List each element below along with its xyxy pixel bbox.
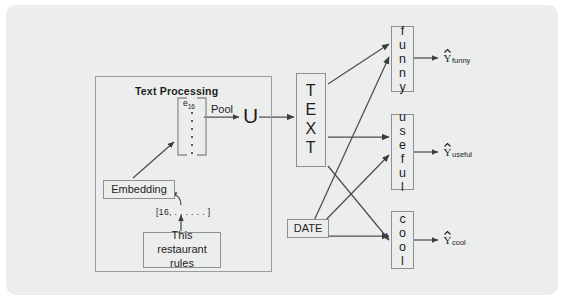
- text-branch-label-l2: E: [305, 101, 316, 120]
- edge-text-to-cool: [328, 166, 389, 240]
- head-cool-l1: c: [399, 212, 405, 226]
- output-useful: Y useful: [443, 143, 472, 159]
- head-useful-l4: f: [401, 152, 404, 166]
- input-text-box[interactable]: This restaurant rules: [143, 232, 221, 268]
- edge-text-to-funny: [328, 44, 389, 84]
- cool-hat-icon: Y: [443, 231, 452, 244]
- head-useful-l5: u: [399, 166, 406, 180]
- date-branch-label: DATE: [290, 222, 327, 236]
- head-funny-l4: n: [399, 66, 406, 80]
- svg-text:Y: Y: [444, 146, 452, 158]
- useful-hat-icon: Y: [443, 143, 452, 156]
- head-cool-box[interactable]: c o o l: [391, 211, 414, 269]
- head-cool-l4: l: [401, 254, 404, 268]
- token-ids-label: [16, . . . . . . ]: [156, 207, 210, 217]
- embedding-box[interactable]: Embedding: [103, 180, 175, 199]
- text-branch-label-l3: X: [305, 120, 316, 139]
- date-branch-box[interactable]: DATE: [287, 219, 329, 238]
- svg-text:Y: Y: [444, 234, 452, 246]
- head-useful-l3: e: [399, 138, 406, 152]
- text-branch-label-l1: T: [306, 82, 316, 101]
- connector-layer: [0, 0, 564, 300]
- head-funny-l1: f: [401, 24, 404, 38]
- head-funny-box[interactable]: f u n n y: [391, 26, 414, 92]
- head-useful-l6: l: [401, 180, 404, 194]
- text-branch-label-l4: T: [306, 139, 316, 158]
- head-useful-l2: s: [399, 124, 405, 138]
- architecture-diagram: Text Processing e16 Pool U Embedding [16…: [0, 0, 564, 300]
- head-funny-l3: n: [399, 52, 406, 66]
- head-useful-l1: u: [399, 110, 406, 124]
- head-cool-l2: o: [399, 226, 406, 240]
- output-useful-subscript: useful: [452, 150, 472, 159]
- pool-label: Pool: [211, 103, 233, 115]
- text-branch-box[interactable]: T E X T: [296, 73, 326, 167]
- embedding-vector-index: 16: [188, 103, 195, 110]
- output-funny: Y funny: [443, 49, 470, 65]
- funny-hat-icon: Y: [443, 49, 452, 62]
- text-processing-title: Text Processing: [135, 85, 218, 97]
- output-funny-subscript: funny: [452, 56, 470, 65]
- head-cool-l3: o: [399, 240, 406, 254]
- embedding-label: Embedding: [107, 183, 171, 197]
- output-cool-subscript: cool: [452, 238, 466, 247]
- input-text-label: This restaurant rules: [144, 229, 220, 270]
- head-funny-l2: u: [399, 38, 406, 52]
- embedding-vector-label: e16: [183, 98, 195, 110]
- svg-text:Y: Y: [444, 52, 452, 64]
- edge-date-to-useful: [318, 155, 389, 228]
- head-funny-l5: y: [399, 80, 405, 94]
- output-cool: Y cool: [443, 231, 466, 247]
- head-useful-box[interactable]: u s e f u l: [391, 114, 414, 190]
- vector-ellipsis: [191, 112, 193, 154]
- pooled-vector-u: U: [243, 104, 258, 128]
